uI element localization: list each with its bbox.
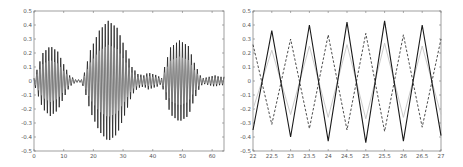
x-tick-label: 60: [209, 153, 216, 159]
x-tick-label: 50: [179, 153, 186, 159]
y-tick-label: -0.4: [240, 134, 251, 140]
x-tick-label: 26: [400, 153, 407, 159]
x-tick-label: 24: [325, 153, 332, 159]
y-tick-label: 0.4: [242, 22, 251, 28]
x-tick-label: 23: [287, 153, 294, 159]
y-tick-label: -0.2: [21, 106, 32, 112]
x-tick-label: 25.5: [378, 153, 391, 159]
chart-left-oscillation: 0102030405060-0.5-0.4-0.3-0.2-0.100.10.2…: [21, 8, 224, 159]
y-tick-label: 0.1: [23, 64, 32, 70]
y-tick-label: -0.1: [240, 92, 251, 98]
y-tick-label: 0: [29, 78, 33, 84]
y-tick-label: 0.5: [242, 8, 251, 14]
y-tick-label: 0.2: [242, 50, 251, 56]
x-tick-label: 27: [438, 153, 445, 159]
x-tick-label: 40: [149, 153, 156, 159]
x-tick-label: 20: [90, 153, 97, 159]
y-tick-label: -0.5: [240, 148, 251, 154]
y-tick-label: 0.4: [23, 22, 32, 28]
y-tick-label: -0.2: [240, 106, 251, 112]
x-tick-label: 30: [120, 153, 127, 159]
y-tick-label: 0.1: [242, 64, 251, 70]
y-tick-label: -0.5: [21, 148, 32, 154]
x-tick-label: 10: [60, 153, 67, 159]
x-tick-label: 22.5: [266, 153, 279, 159]
chart-right-triangle-waves: 2222.52323.52424.52525.52626.527-0.5-0.4…: [240, 8, 445, 159]
y-tick-label: 0.3: [242, 36, 251, 42]
x-tick-label: 25: [362, 153, 369, 159]
x-tick-label: 23.5: [303, 153, 316, 159]
y-tick-label: 0.2: [23, 50, 32, 56]
y-tick-label: -0.3: [21, 120, 32, 126]
x-tick-label: 24.5: [341, 153, 354, 159]
x-tick-label: 26.5: [416, 153, 429, 159]
y-tick-label: -0.4: [21, 134, 32, 140]
y-tick-label: 0.3: [23, 36, 32, 42]
x-tick-label: 0: [32, 153, 36, 159]
y-tick-label: 0: [248, 78, 252, 84]
y-tick-label: 0.5: [23, 8, 32, 14]
y-tick-label: -0.3: [240, 120, 251, 126]
figure: 0102030405060-0.5-0.4-0.3-0.2-0.100.10.2…: [0, 0, 463, 167]
y-tick-label: -0.1: [21, 92, 32, 98]
